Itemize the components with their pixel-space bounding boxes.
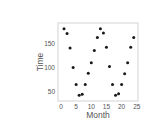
x-tick-label: 25: [133, 103, 141, 110]
data-point: [126, 61, 129, 64]
data-point: [129, 46, 132, 49]
data-point: [114, 94, 117, 97]
data-point: [117, 92, 120, 95]
x-tick-label: 20: [118, 103, 126, 110]
data-point: [108, 65, 111, 68]
x-tick-label: 0: [59, 103, 63, 110]
data-point: [96, 36, 99, 39]
data-point: [90, 61, 93, 64]
data-point: [120, 83, 123, 86]
data-point: [93, 49, 96, 52]
data-point: [99, 27, 102, 30]
x-tick-label: 10: [88, 103, 96, 110]
data-point: [66, 32, 69, 35]
x-axis-label: Month: [86, 110, 110, 120]
data-point: [81, 93, 84, 96]
y-tick-label: 50: [48, 88, 56, 95]
y-tick-label: 150: [44, 40, 55, 47]
data-point: [102, 32, 105, 35]
data-point: [63, 27, 66, 30]
data-point: [75, 83, 78, 86]
data-point: [105, 46, 108, 49]
plot-frame: [58, 23, 138, 101]
x-tick-label: 5: [74, 103, 78, 110]
data-point: [72, 66, 75, 69]
data-point: [111, 83, 114, 86]
scatter-plot: 50100150 0510152025 Month Time: [0, 0, 158, 128]
data-point: [69, 47, 72, 50]
x-axis: 0510152025: [59, 103, 141, 110]
data-point: [87, 72, 90, 75]
x-tick-label: 15: [103, 103, 111, 110]
y-axis-label: Time: [35, 52, 45, 71]
data-point: [84, 83, 87, 86]
y-tick-label: 100: [44, 64, 55, 71]
data-point: [78, 94, 81, 97]
data-point: [123, 72, 126, 75]
scatter-chart: 50100150 0510152025 Month Time: [0, 0, 158, 128]
y-axis: 50100150: [44, 40, 55, 96]
data-point: [132, 36, 135, 39]
